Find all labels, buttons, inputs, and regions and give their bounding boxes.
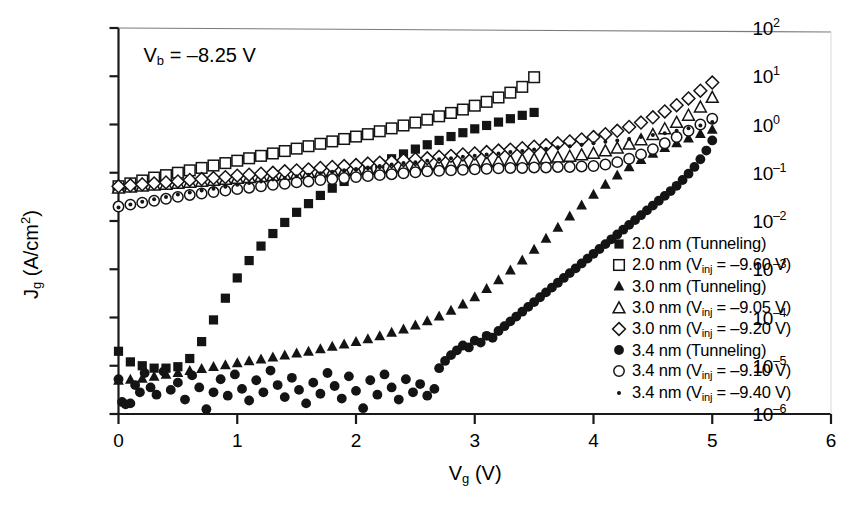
x-tick-label: 1 [232,430,243,452]
legend-item: 3.4 nm (Vinj = –9.40 V) [606,382,791,403]
open-diamond-icon [606,319,632,339]
legend-item-label: 3.0 nm (Vinj = –9.20 V) [632,319,791,339]
y-tick-label: 10–2 [753,209,857,232]
y-tick-label: 102 [753,16,857,39]
x-axis-title: Vg (V) [449,462,502,486]
legend-item: 3.4 nm (Vinj = –9.10 V) [606,361,791,382]
legend-item-label: 3.0 nm (Vinj = –9.05 V) [632,298,791,318]
filled-circle-icon [606,340,632,360]
legend-item: 2.0 nm (Vinj = –9.60 V) [606,254,791,275]
open-circle-icon [606,361,632,381]
legend-item-label: 3.4 nm (Tunneling) [632,341,766,360]
legend-item: 3.4 nm (Tunneling) [606,339,791,360]
y-tick-label: 101 [753,65,857,88]
filled-square-icon [606,234,632,254]
x-tick-label: 3 [469,430,480,452]
x-tick-label: 0 [113,430,124,452]
x-tick-label: 4 [588,430,599,452]
y-tick-label: 10–1 [753,161,857,184]
y-tick-label: 10–6 [753,402,857,425]
legend-item: 3.0 nm (Vinj = –9.20 V) [606,318,791,339]
y-tick-label: 100 [753,113,857,136]
legend-item: 3.0 nm (Vinj = –9.05 V) [606,297,791,318]
x-tick-label: 5 [707,430,718,452]
filled-triangle-icon [606,276,632,296]
y-axis-title: Jg (A/cm2) [18,210,44,299]
legend-item-label: 2.0 nm (Tunneling) [632,234,766,253]
legend-item-label: 3.4 nm (Vinj = –9.10 V) [632,361,791,381]
x-tick-label: 6 [826,430,837,452]
legend-item-label: 3.0 nm (Tunneling) [632,277,766,296]
legend: 2.0 nm (Tunneling)2.0 nm (Vinj = –9.60 V… [606,233,791,403]
legend-item-label: 2.0 nm (Vinj = –9.60 V) [632,255,791,275]
small-dot-icon [606,383,632,403]
open-square-icon [606,255,632,275]
figure-root: 10210110010–110–210–310–410–510–6 012345… [0,0,857,513]
open-triangle-icon [606,298,632,318]
legend-item: 3.0 nm (Tunneling) [606,276,791,297]
x-tick-label: 2 [351,430,362,452]
bias-annotation: Vb = –8.25 V [144,44,256,68]
legend-item: 2.0 nm (Tunneling) [606,233,791,254]
legend-item-label: 3.4 nm (Vinj = –9.40 V) [632,383,791,403]
